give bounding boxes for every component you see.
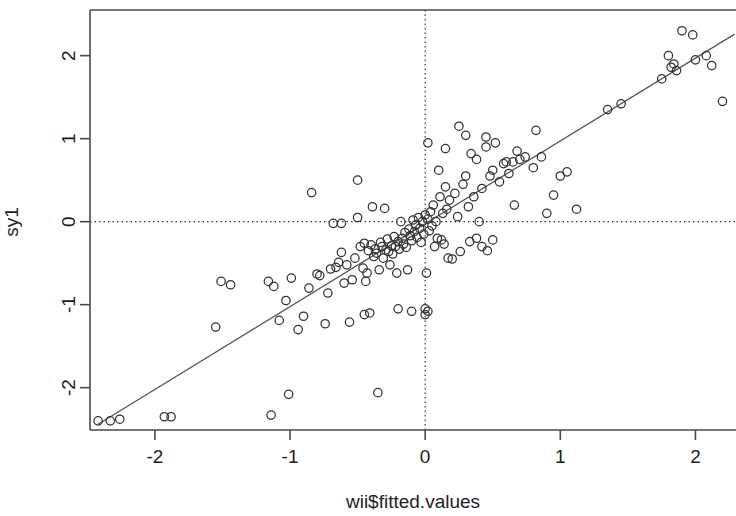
x-tick-label: 1	[555, 446, 566, 467]
plot-canvas: -2-1012-2-1012 wii$fitted.values sy1	[0, 0, 736, 516]
scatter-plot-figure: -2-1012-2-1012 wii$fitted.values sy1	[0, 0, 736, 516]
figure-background	[0, 0, 736, 516]
x-tick-label: -1	[282, 446, 299, 467]
x-axis-label: wii$fitted.values	[345, 491, 480, 512]
y-tick-label: 1	[58, 133, 79, 144]
y-axis-label: sy1	[1, 207, 22, 237]
x-tick-label: -2	[146, 446, 163, 467]
x-tick-label: 2	[690, 446, 701, 467]
y-tick-label: 0	[58, 216, 79, 227]
x-tick-label: 0	[420, 446, 431, 467]
y-tick-label: -1	[58, 296, 79, 313]
y-tick-label: 2	[58, 50, 79, 61]
y-tick-label: -2	[58, 379, 79, 396]
